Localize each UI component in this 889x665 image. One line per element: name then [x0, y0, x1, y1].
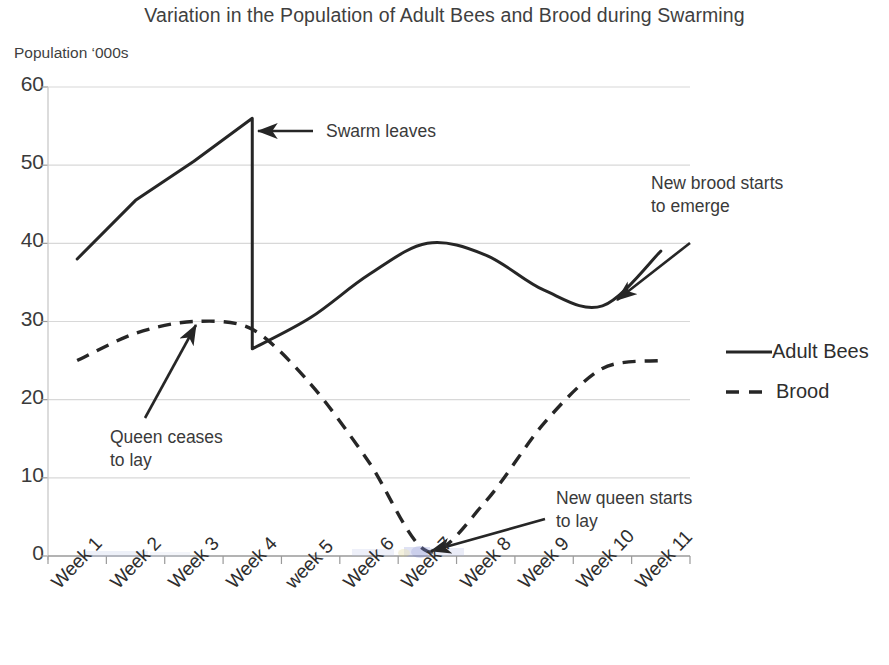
legend-label-adult-bees: Adult Bees [772, 340, 869, 363]
series-line-adult-bees [77, 118, 661, 349]
annotation-new-brood-starts-to-emerge: New brood starts to emerge [651, 172, 783, 218]
gridlines [41, 87, 690, 556]
annotation-queen-ceases-to-lay: Queen ceases to lay [110, 426, 223, 472]
legend-markers [726, 352, 772, 392]
annotation-swarm-leaves: Swarm leaves [326, 120, 436, 143]
arrow-queen-ceases-to-lay [145, 325, 196, 418]
bee-population-chart: Variation in the Population of Adult Bee… [0, 0, 889, 665]
arrow-new-brood-starts-to-emerge [617, 243, 690, 300]
legend-label-brood: Brood [776, 380, 829, 403]
